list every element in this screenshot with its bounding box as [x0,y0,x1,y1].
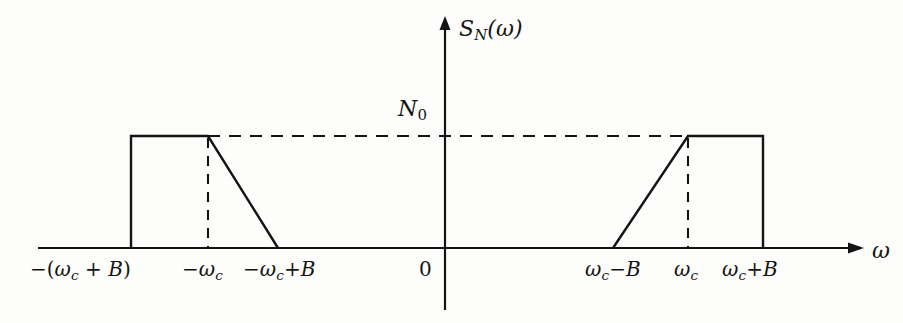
vertical-axis-label-subscript: N [474,26,487,44]
vertical-axis-arrowhead [440,16,451,30]
n0-base: N [398,96,417,121]
vertical-axis-label-argument: (ω) [487,16,522,41]
horizontal-axis-arrowhead [848,243,864,254]
vertical-axis-label-base: S [459,16,474,41]
tick-label-wc-plus-b: ωc+B [722,259,778,282]
tick-label-wc-minus-b: ωc−B [585,259,641,282]
horizontal-axis-label: ω [872,240,890,262]
tick-label-neg-wc: −ωc [182,259,223,282]
n0-amplitude-label: N0 [398,98,427,123]
tick-label-neg-wc-plus-b-edge: −ωc+B [243,259,315,282]
tick-label-neg-wc-plus-b: −(ωc + B) [30,259,131,282]
n0-subscript: 0 [417,106,427,124]
vertical-axis-label: SN(ω) [459,18,522,43]
tick-label-origin: 0 [419,259,432,279]
tick-label-wc: ωc [674,259,698,282]
psd-figure: SN(ω) N0 ω −(ωc + B) −ωc −ωc+B 0 ωc−B ωc… [0,0,903,323]
left-lobe-outline [131,136,278,248]
